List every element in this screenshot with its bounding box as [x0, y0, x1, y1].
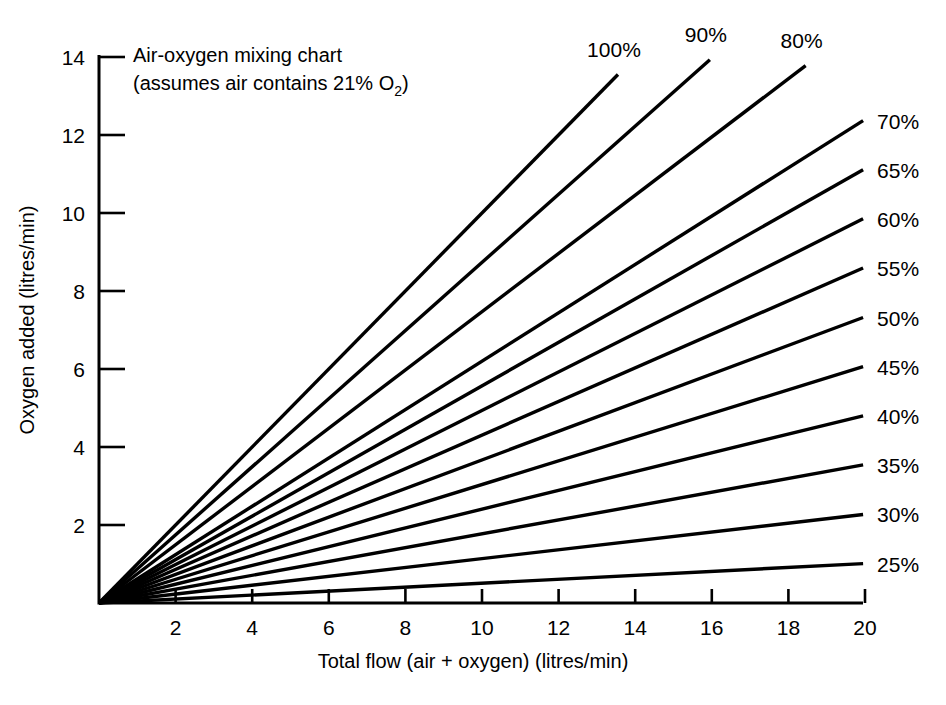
- series-label-35: 35%: [877, 454, 919, 477]
- y-tick-label: 10: [62, 202, 85, 225]
- chart-annotation: Air-oxygen mixing chart (assumes air con…: [133, 44, 409, 99]
- series-label-45: 45%: [877, 356, 919, 379]
- y-tick-label: 12: [62, 124, 85, 147]
- y-tick-label: 4: [73, 436, 85, 459]
- series-lines-group: [99, 60, 863, 603]
- x-tick-label: 8: [400, 616, 412, 639]
- series-label-50: 50%: [877, 307, 919, 330]
- series-label-55: 55%: [877, 257, 919, 280]
- series-label-40: 40%: [877, 405, 919, 428]
- x-tick-label: 14: [624, 616, 648, 639]
- series-label-25: 25%: [877, 553, 919, 576]
- series-label-70: 70%: [877, 110, 919, 133]
- x-tick-label: 20: [853, 616, 876, 639]
- air-oxygen-mixing-chart: 2468101214161820 2468101214 100%90%80%70…: [0, 0, 946, 705]
- axis-lines: [99, 55, 863, 603]
- series-line-80: [99, 66, 806, 603]
- annotation-title-line: Air-oxygen mixing chart: [133, 44, 342, 66]
- series-label-80: 80%: [781, 29, 823, 52]
- annotation-subtitle-prefix: (assumes air contains 21% O: [133, 72, 394, 94]
- x-tick-label: 16: [700, 616, 723, 639]
- y-tick-label: 8: [73, 280, 85, 303]
- series-label-100: 100%: [587, 38, 641, 61]
- x-axis-ticks: [176, 589, 865, 603]
- y-axis-tick-labels: 2468101214: [62, 46, 86, 537]
- series-line-40: [99, 416, 863, 603]
- series-label-30: 30%: [877, 503, 919, 526]
- x-tick-label: 10: [470, 616, 493, 639]
- series-label-65: 65%: [877, 159, 919, 182]
- x-tick-label: 4: [246, 616, 258, 639]
- x-tick-label: 6: [323, 616, 335, 639]
- y-tick-label: 14: [62, 46, 86, 69]
- x-axis-title: Total flow (air + oxygen) (litres/min): [318, 650, 629, 672]
- x-tick-label: 2: [170, 616, 182, 639]
- annotation-subtitle-line: (assumes air contains 21% O2): [133, 72, 409, 99]
- annotation-subtitle-subscript: 2: [394, 83, 402, 99]
- x-tick-label: 12: [547, 616, 570, 639]
- series-line-90: [99, 60, 710, 603]
- axes: [99, 55, 863, 603]
- y-axis-ticks: [99, 57, 125, 525]
- y-tick-label: 2: [73, 514, 85, 537]
- series-label-90: 90%: [685, 23, 727, 46]
- y-axis-title: Oxygen added (litres/min): [16, 206, 38, 435]
- x-axis-tick-labels: 2468101214161820: [170, 616, 877, 639]
- series-line-55: [99, 268, 863, 603]
- annotation-subtitle-suffix: ): [402, 72, 409, 94]
- x-tick-label: 18: [777, 616, 800, 639]
- series-label-60: 60%: [877, 208, 919, 231]
- chart-canvas: 2468101214161820 2468101214 100%90%80%70…: [0, 0, 946, 705]
- series-line-65: [99, 170, 863, 603]
- series-line-60: [99, 219, 863, 603]
- y-tick-label: 6: [73, 358, 85, 381]
